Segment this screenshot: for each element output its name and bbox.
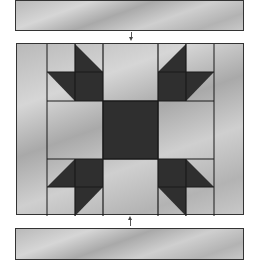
top-border-strip[interactable] — [15, 0, 244, 31]
center-block[interactable] — [16, 43, 244, 215]
block-pattern — [17, 44, 245, 216]
center-square — [103, 101, 158, 159]
bottom-border-strip[interactable] — [15, 228, 244, 260]
